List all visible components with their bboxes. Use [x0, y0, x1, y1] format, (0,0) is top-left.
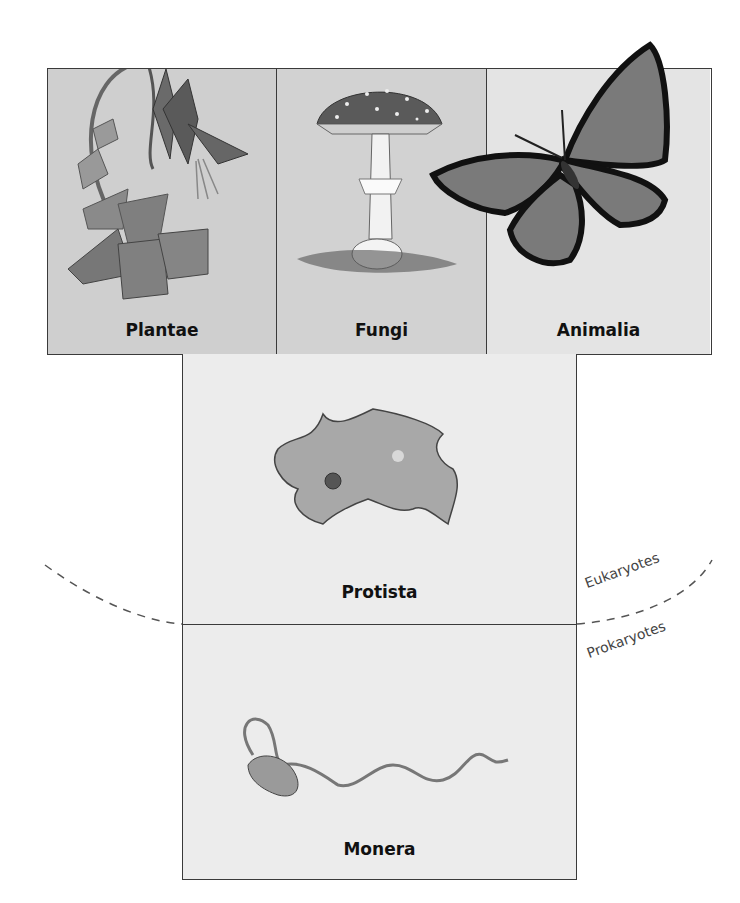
kingdom-panel-protista: Protista [182, 354, 577, 625]
kingdom-panel-monera: Monera [182, 624, 577, 880]
kingdom-panel-plantae: Plantae [48, 69, 277, 354]
kingdom-label-animalia: Animalia [487, 320, 710, 340]
kingdom-label-plantae: Plantae [48, 320, 276, 340]
prokaryotes-label: Prokaryotes [585, 618, 668, 661]
kingdom-label-protista: Protista [183, 582, 576, 602]
kingdom-label-monera: Monera [183, 839, 576, 859]
kingdom-label-fungi: Fungi [277, 320, 486, 340]
kingdom-panel-animalia: Animalia [487, 69, 710, 354]
upper-kingdoms-row: Plantae Fungi Animalia [47, 68, 712, 355]
domain-divider-left [45, 565, 182, 624]
mushroom-icon [277, 69, 487, 354]
kingdom-panel-fungi: Fungi [277, 69, 487, 354]
eukaryotes-label: Eukaryotes [583, 549, 662, 591]
plant-flower-icon [48, 69, 277, 354]
